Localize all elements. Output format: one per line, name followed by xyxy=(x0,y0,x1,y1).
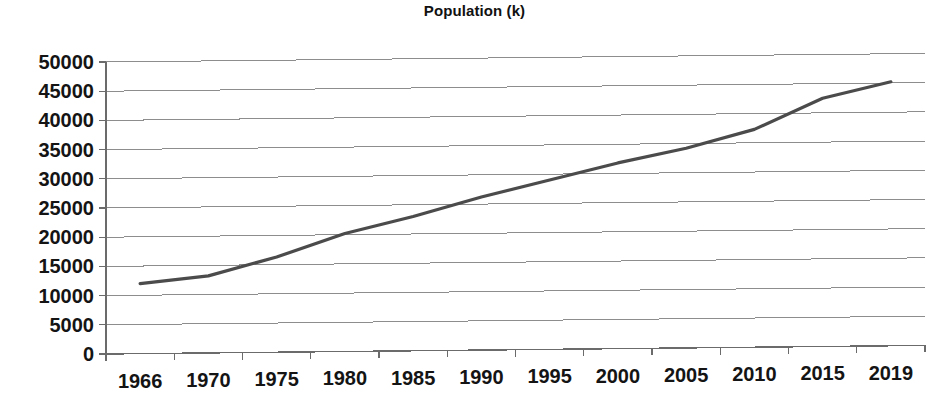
x-tick-label: 1975 xyxy=(254,368,299,390)
gridline-y-50000 xyxy=(106,53,925,62)
series-line-1 xyxy=(140,82,891,284)
x-tick-label: 1970 xyxy=(186,369,231,391)
gridline-y-45000 xyxy=(106,83,925,92)
x-tick-label: 2000 xyxy=(596,365,641,387)
y-tick-label: 30000 xyxy=(38,168,94,190)
y-tick-label: 40000 xyxy=(38,109,94,131)
x-tick-label: 1966 xyxy=(118,370,163,392)
chart-plot-area: 0500010000150002000025000300003500040000… xyxy=(0,0,949,409)
x-tick-label: 1990 xyxy=(459,366,504,388)
y-tick-label: 50000 xyxy=(38,51,94,73)
chart-container: Population (k) 0500010000150002000025000… xyxy=(0,0,949,409)
y-tick-label: 35000 xyxy=(38,139,94,161)
x-tick-label: 1985 xyxy=(391,367,436,389)
gridline-y-30000 xyxy=(106,170,925,179)
x-tick-label: 2005 xyxy=(664,364,709,386)
y-tick-label: 5000 xyxy=(50,314,95,336)
x-axis-tick-labels: 1966197019751980198519901995200020052010… xyxy=(118,362,913,392)
gridline-y-10000 xyxy=(106,287,925,296)
gridline-y-35000 xyxy=(106,141,925,150)
gridlines-group xyxy=(106,53,925,354)
gridline-y-20000 xyxy=(106,229,925,238)
gridline-y-25000 xyxy=(106,199,925,208)
x-tick-label: 2019 xyxy=(869,362,914,384)
gridline-y-40000 xyxy=(106,112,925,121)
gridline-y-5000 xyxy=(106,316,925,325)
gridline-y-15000 xyxy=(106,258,925,267)
y-tick-label: 10000 xyxy=(38,285,94,307)
y-tick-label: 25000 xyxy=(38,197,94,219)
x-tick-label: 1980 xyxy=(323,367,368,389)
x-tick-label: 2010 xyxy=(732,363,777,385)
x-tick-label: 2015 xyxy=(800,362,845,384)
y-tick-label: 0 xyxy=(83,343,94,365)
y-tick-label: 15000 xyxy=(38,255,94,277)
y-tick-label: 45000 xyxy=(38,80,94,102)
data-series-group xyxy=(140,82,891,284)
y-tick-label: 20000 xyxy=(38,226,94,248)
y-axis-tick-labels: 0500010000150002000025000300003500040000… xyxy=(38,51,94,365)
x-tick-label: 1995 xyxy=(527,365,572,387)
